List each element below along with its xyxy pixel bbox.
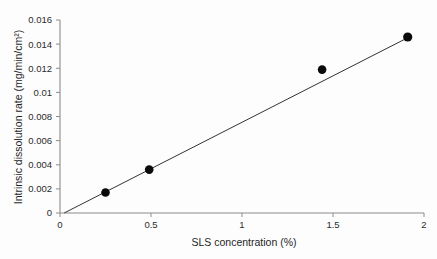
data-point-marker (101, 188, 110, 197)
y-tick-label-7: 0.014 (28, 39, 52, 50)
y-tick-label-4: 0.008 (28, 111, 52, 122)
data-point-marker (403, 32, 412, 41)
y-tick-label-0: 0 (47, 207, 52, 218)
data-point-marker (318, 65, 327, 74)
y-tick-label-2: 0.004 (28, 159, 52, 170)
data-point-marker (145, 165, 154, 174)
x-tick-label-4: 2 (421, 219, 426, 230)
y-tick-label-6: 0.012 (28, 63, 52, 74)
y-axis-title: Intrinsic dissolution rate (mg/min/cm²) (12, 30, 24, 204)
x-axis-title: SLS concentration (%) (191, 236, 296, 248)
x-tick-label-3: 1.5 (326, 219, 339, 230)
fit-line (64, 38, 408, 213)
y-tick-label-5: 0.01 (34, 87, 53, 98)
x-tick-label-1: 0.5 (144, 219, 157, 230)
x-tick-label-2: 1 (239, 219, 244, 230)
y-tick-label-3: 0.006 (28, 135, 52, 146)
x-tick-label-0: 0 (57, 219, 62, 230)
y-tick-label-8: 0.016 (28, 14, 52, 25)
y-tick-label-1: 0.002 (28, 183, 52, 194)
chart-figure: 0 0.002 0.004 0.006 0.008 0.01 0.012 0.0… (0, 0, 437, 259)
scatter-plot: 0 0.002 0.004 0.006 0.008 0.01 0.012 0.0… (0, 0, 437, 259)
